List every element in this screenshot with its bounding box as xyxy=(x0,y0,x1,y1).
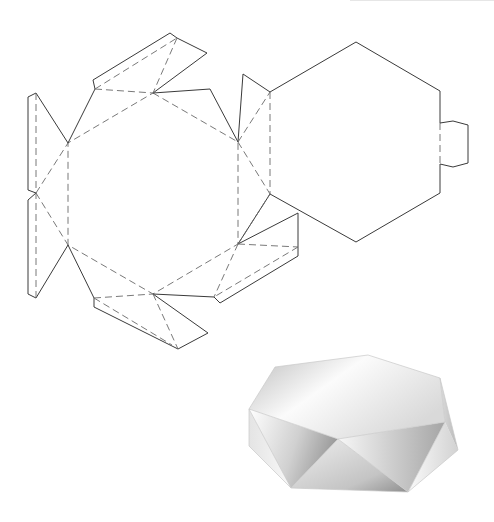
dieline-diagram xyxy=(0,0,494,522)
bottom-side-panel xyxy=(68,245,208,349)
upper-right-side-panel xyxy=(238,74,270,194)
left-side-panels xyxy=(28,93,68,298)
base-hexagon xyxy=(68,93,238,294)
lid-hexagon xyxy=(270,42,440,242)
lower-right-side-panel xyxy=(153,194,298,303)
lid-tab xyxy=(440,121,468,167)
assembled-box-3d xyxy=(249,355,458,492)
top-side-panel xyxy=(68,33,238,143)
